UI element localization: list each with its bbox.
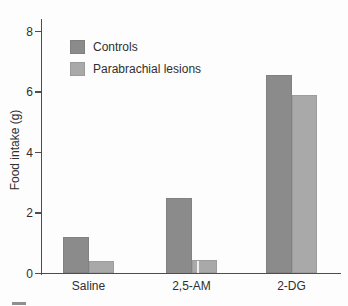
bar-parabrachial-lesions-saline xyxy=(89,261,114,273)
bar-controls-saline xyxy=(63,237,89,273)
scan-artifact-line xyxy=(197,261,199,274)
legend-entry-parabrachial-lesions: Parabrachial lesions xyxy=(70,62,201,76)
y-tick-label-8: 8 xyxy=(13,24,33,40)
y-tick-label-2: 2 xyxy=(13,205,33,221)
bar-controls-2-dg xyxy=(266,75,292,273)
x-label-saline: Saline xyxy=(54,279,124,294)
legend-swatch-parabrachial-lesions xyxy=(70,62,85,76)
bar-parabrachial-lesions-2-dg xyxy=(292,95,317,273)
bar-parabrachial-lesions-2-5-am xyxy=(192,260,217,274)
x-label-2-5-am: 2,5-AM xyxy=(157,279,227,294)
x-label-2-dg: 2-DG xyxy=(257,279,327,294)
bar-chart-figure: Food intake (g) 02468 Saline2,5-AM2-DG C… xyxy=(0,0,348,306)
cropped-figure-fragment xyxy=(12,302,26,305)
legend-label-controls: Controls xyxy=(93,40,138,54)
legend-entry-controls: Controls xyxy=(70,40,201,54)
legend-swatch-controls xyxy=(70,40,85,54)
y-tick-label-6: 6 xyxy=(13,84,33,100)
legend: Controls Parabrachial lesions xyxy=(70,40,201,84)
bar-controls-2-5-am xyxy=(166,198,192,274)
legend-label-parabrachial-lesions: Parabrachial lesions xyxy=(93,62,201,76)
y-tick-label-4: 4 xyxy=(13,145,33,161)
x-axis-line xyxy=(41,273,341,274)
y-tick-label-0: 0 xyxy=(13,266,33,282)
y-axis-line xyxy=(41,19,42,275)
